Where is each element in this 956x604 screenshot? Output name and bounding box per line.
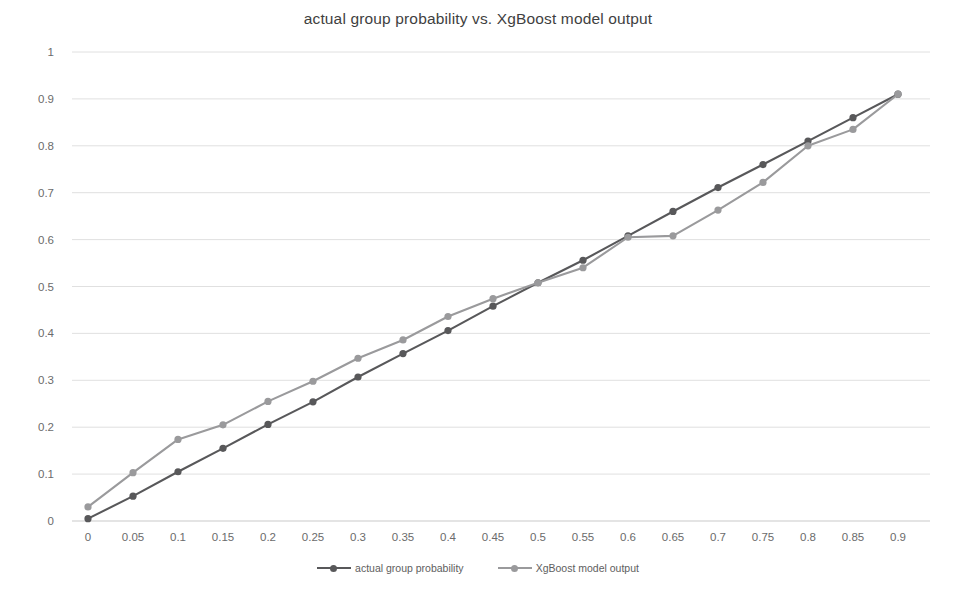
y-axis-tick-label: 0.4 [14,327,54,339]
x-axis-tick-label: 0.05 [108,531,158,543]
y-axis-tick-label: 0.2 [14,421,54,433]
x-axis-tick-label: 0.9 [873,531,923,543]
data-point-marker [489,295,496,302]
legend-marker-icon [498,563,532,573]
data-point-marker [444,313,451,320]
data-point-marker [714,184,721,191]
x-axis-tick-label: 0.1 [153,531,203,543]
data-point-marker [759,179,766,186]
x-axis-tick-label: 0.2 [243,531,293,543]
x-axis-tick-label: 0.55 [558,531,608,543]
chart-container: actual group probability vs. XgBoost mod… [0,0,956,604]
data-point-marker [849,126,856,133]
y-axis-tick-label: 0.3 [14,374,54,386]
gridlines [72,52,930,521]
x-axis-tick-label: 0.25 [288,531,338,543]
x-axis-tick-label: 0.6 [603,531,653,543]
y-axis-tick-label: 0.5 [14,281,54,293]
series-actual-group-probability [84,91,901,523]
data-point-marker [579,264,586,271]
data-point-marker [444,327,451,334]
data-point-marker [669,232,676,239]
x-axis-tick-label: 0 [63,531,113,543]
data-point-marker [354,373,361,380]
legend-marker-icon [317,563,351,573]
y-axis-tick-label: 0 [14,515,54,527]
y-axis-tick-label: 0.8 [14,140,54,152]
x-axis-tick-label: 0.7 [693,531,743,543]
y-axis-tick-label: 0.7 [14,187,54,199]
data-point-marker [309,398,316,405]
data-point-marker [759,161,766,168]
data-point-marker [219,421,226,428]
data-point-marker [309,378,316,385]
x-axis-tick-label: 0.35 [378,531,428,543]
y-axis-tick-label: 0.1 [14,468,54,480]
x-axis-tick-label: 0.65 [648,531,698,543]
data-point-marker [354,355,361,362]
data-point-marker [579,257,586,264]
data-point-marker [399,350,406,357]
data-point-marker [84,503,91,510]
legend-label: actual group probability [355,562,464,574]
x-axis-tick-label: 0.3 [333,531,383,543]
x-axis-tick-label: 0.8 [783,531,833,543]
x-axis-tick-label: 0.15 [198,531,248,543]
data-point-marker [264,421,271,428]
data-point-marker [174,436,181,443]
data-point-marker [624,234,631,241]
legend-item[interactable]: XgBoost model output [498,562,639,574]
x-axis-tick-label: 0.45 [468,531,518,543]
series-layer [84,91,901,523]
data-point-marker [174,468,181,475]
legend-label: XgBoost model output [536,562,639,574]
data-point-marker [129,469,136,476]
x-axis-tick-label: 0.5 [513,531,563,543]
x-axis-tick-label: 0.85 [828,531,878,543]
data-point-marker [399,336,406,343]
data-point-marker [489,303,496,310]
y-axis-tick-label: 1 [14,46,54,58]
chart-legend: actual group probabilityXgBoost model ou… [0,562,956,574]
x-axis-tick-label: 0.75 [738,531,788,543]
chart-svg [0,0,956,604]
plot-area [0,0,956,604]
series-xgboost-model-output [84,91,901,511]
y-axis-tick-label: 0.6 [14,234,54,246]
data-point-marker [129,493,136,500]
data-point-marker [84,515,91,522]
data-point-marker [219,445,226,452]
data-point-marker [894,91,901,98]
data-point-marker [714,206,721,213]
y-axis-tick-label: 0.9 [14,93,54,105]
data-point-marker [849,114,856,121]
data-point-marker [264,398,271,405]
legend-item[interactable]: actual group probability [317,562,464,574]
x-axis-tick-label: 0.4 [423,531,473,543]
data-point-marker [669,208,676,215]
data-point-marker [534,279,541,286]
data-point-marker [804,142,811,149]
